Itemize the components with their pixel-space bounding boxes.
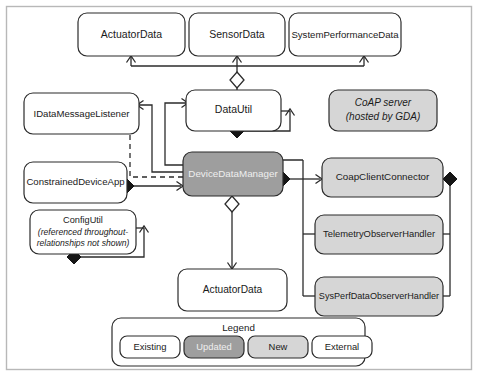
node-data-util[interactable]: DataUtil xyxy=(186,90,281,131)
legend-item-new[interactable]: New xyxy=(248,336,308,358)
node-constrained-device-app-rect[interactable] xyxy=(24,162,127,203)
node-sysperf-observer-handler[interactable]: SysPerfDataObserverHandler xyxy=(315,277,443,316)
legend-updated-swatch[interactable] xyxy=(184,336,244,358)
node-coap-server[interactable]: CoAP server (hosted by GDA) xyxy=(329,90,437,131)
node-coap-client-connector-rect[interactable] xyxy=(322,158,443,197)
node-data-util-rect[interactable] xyxy=(186,90,281,131)
node-telemetry-observer-handler-rect[interactable] xyxy=(315,215,443,254)
node-idata-message-listener-rect[interactable] xyxy=(24,93,139,134)
node-device-data-manager-rect[interactable] xyxy=(183,152,283,196)
aggregation-diamond-ddm-bottom xyxy=(225,196,239,212)
legend-external-swatch[interactable] xyxy=(312,336,372,358)
node-telemetry-observer-handler[interactable]: TelemetryObserverHandler xyxy=(315,215,443,254)
node-actuator-data-bottom[interactable]: ActuatorData xyxy=(178,269,287,311)
nodes-layer: ActuatorData SensorData SystemPerformanc… xyxy=(24,13,443,316)
node-constrained-device-app[interactable]: ConstrainedDeviceApp xyxy=(24,162,127,203)
node-coap-server-rect[interactable] xyxy=(329,90,437,131)
node-system-performance-data-rect[interactable] xyxy=(289,13,401,56)
legend-existing-swatch[interactable] xyxy=(120,336,180,358)
aggregation-diamond-datautil xyxy=(230,72,244,88)
architecture-diagram: ActuatorData SensorData SystemPerformanc… xyxy=(0,0,478,376)
node-coap-client-connector[interactable]: CoapClientConnector xyxy=(322,158,443,197)
legend-item-updated[interactable]: Updated xyxy=(184,336,244,358)
node-device-data-manager[interactable]: DeviceDataManager xyxy=(183,152,283,196)
node-actuator-data-top-rect[interactable] xyxy=(78,13,185,56)
node-sensor-data[interactable]: SensorData xyxy=(189,13,285,56)
node-sysperf-observer-handler-rect[interactable] xyxy=(315,277,443,316)
edge-ddm-to-datautil-route xyxy=(165,103,186,165)
node-sensor-data-rect[interactable] xyxy=(189,13,285,56)
node-actuator-data-bottom-rect[interactable] xyxy=(178,269,287,311)
node-config-util-rect[interactable] xyxy=(30,210,136,254)
node-actuator-data-top[interactable]: ActuatorData xyxy=(78,13,185,56)
legend-new-swatch[interactable] xyxy=(248,336,308,358)
legend-item-external[interactable]: External xyxy=(312,336,372,358)
node-idata-message-listener[interactable]: IDataMessageListener xyxy=(24,93,139,134)
composition-diamond-coapclient xyxy=(443,172,457,186)
legend: Legend Existing Updated New External xyxy=(112,318,372,366)
legend-item-existing[interactable]: Existing xyxy=(120,336,180,358)
node-system-performance-data[interactable]: SystemPerformanceData xyxy=(289,13,401,56)
edge-ddm-to-listener-route xyxy=(139,105,183,172)
node-config-util[interactable]: ConfigUtil (referenced throughout- relat… xyxy=(30,210,136,254)
diagram-canvas: ActuatorData SensorData SystemPerformanc… xyxy=(0,0,478,376)
